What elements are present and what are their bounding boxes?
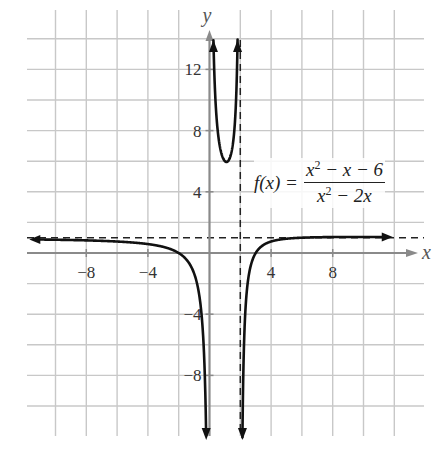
x-tick-label: −4 (139, 263, 158, 282)
x-tick-label: −8 (77, 263, 95, 282)
x-axis-arrow-icon (406, 249, 418, 257)
y-tick-label: −4 (183, 305, 202, 324)
y-tick-label: −8 (183, 366, 201, 385)
function-formula: f(x) = x2 − x − 6 x2 − 2x (254, 158, 385, 208)
y-tick-label: 4 (193, 183, 202, 202)
x-tick-label: 4 (267, 263, 276, 282)
formula-denominator: x2 − 2x (317, 183, 372, 207)
middle-branch-curve (213, 39, 237, 162)
y-axis-label: y (201, 4, 212, 27)
formula-fraction: x2 − x − 6 x2 − 2x (304, 158, 385, 208)
x-axis-label: x (421, 241, 431, 263)
grid-lines (27, 10, 424, 436)
left-arrow-icon (29, 235, 40, 244)
formula-numerator: x2 − x − 6 (304, 158, 385, 183)
right-arrow-icon (382, 232, 393, 241)
rational-function-graph: xy −8−4481284−4−8 (0, 0, 437, 455)
x-tick-label: 8 (328, 263, 337, 282)
y-tick-label: 12 (185, 60, 202, 79)
right-branch-curve (242, 237, 386, 437)
formula-lhs: f(x) = (254, 172, 298, 194)
y-axis-arrow-icon (206, 30, 214, 41)
down-arrow-icon (238, 428, 247, 440)
y-tick-label: 8 (193, 122, 202, 141)
